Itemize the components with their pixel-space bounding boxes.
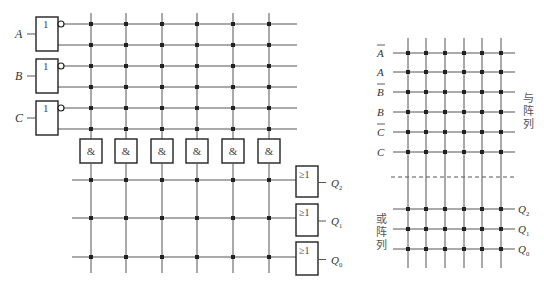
junction-dot: [267, 127, 271, 131]
junction-dot: [462, 70, 466, 74]
junction-dot: [406, 51, 410, 55]
junction-dot: [499, 110, 503, 114]
junction-dot: [462, 150, 466, 154]
output-label-Q0: Q0: [331, 254, 343, 268]
and-array-label-char: 与: [523, 92, 534, 105]
junction-dot: [443, 207, 447, 211]
and-gate-label: &: [158, 145, 167, 157]
junction-dot: [443, 70, 447, 74]
junction-dot: [406, 130, 410, 134]
junction-dot: [443, 110, 447, 114]
output-subscript: 2: [339, 184, 342, 191]
junction-dot: [267, 106, 271, 110]
junction-dot: [462, 90, 466, 94]
and-gate-label: &: [122, 145, 131, 157]
row-label-A: A: [376, 66, 384, 78]
row-label-not-B: B: [377, 86, 384, 98]
junction-dot: [231, 255, 235, 259]
junction-dot: [231, 216, 235, 220]
junction-dot: [443, 130, 447, 134]
junction-dot: [89, 178, 93, 182]
output-label-Q2: Q2: [331, 177, 342, 191]
junction-dot: [124, 178, 128, 182]
input-label-B: B: [15, 69, 23, 83]
junction-dot: [160, 85, 164, 89]
output-letter: Q: [331, 254, 339, 266]
and-gate-label: &: [193, 145, 202, 157]
junction-dot: [406, 90, 410, 94]
or-array-label-char: 列: [376, 238, 387, 252]
junction-dot: [424, 90, 428, 94]
junction-dot: [406, 247, 410, 251]
or-array-label-char: 阵: [376, 225, 387, 239]
or-gate-label: ≥1: [299, 207, 310, 218]
junction-dot: [443, 90, 447, 94]
row-label-not-A: A: [376, 47, 384, 59]
junction-dot: [424, 51, 428, 55]
junction-dot: [499, 90, 503, 94]
or-gate-label: ≥1: [299, 169, 310, 180]
buffer-gate-label: 1: [43, 102, 49, 114]
junction-dot: [499, 130, 503, 134]
junction-dot: [424, 227, 428, 231]
junction-dot: [424, 130, 428, 134]
junction-dot: [160, 64, 164, 68]
junction-dot: [424, 247, 428, 251]
junction-dot: [160, 22, 164, 26]
junction-dot: [480, 90, 484, 94]
input-label-C: C: [15, 111, 24, 125]
junction-dot: [89, 106, 93, 110]
and-array-label-char: 阵: [523, 104, 534, 118]
inverter-bubble: [58, 63, 64, 69]
junction-dot: [499, 247, 503, 251]
pla-diagram: 1A1B1C&&&&&&≥1Q2≥1Q1≥1Q0AABBCC与阵列Q2Q1Q0或…: [0, 0, 544, 288]
junction-dot: [443, 247, 447, 251]
junction-dot: [231, 22, 235, 26]
junction-dot: [499, 51, 503, 55]
buffer-gate-label: 1: [43, 18, 49, 30]
or-array-label-char: 或: [376, 213, 387, 226]
junction-dot: [499, 227, 503, 231]
junction-dot: [231, 106, 235, 110]
output-letter: Q: [331, 177, 339, 189]
junction-dot: [124, 106, 128, 110]
output-subscript: 0: [526, 250, 530, 257]
output-subscript: 1: [526, 230, 529, 237]
junction-dot: [480, 130, 484, 134]
junction-dot: [160, 106, 164, 110]
inverter-bubble: [58, 105, 64, 111]
junction-dot: [499, 150, 503, 154]
junction-dot: [231, 43, 235, 47]
junction-dot: [160, 43, 164, 47]
junction-dot: [195, 216, 199, 220]
junction-dot: [443, 51, 447, 55]
junction-dot: [89, 43, 93, 47]
junction-dot: [124, 127, 128, 131]
junction-dot: [124, 22, 128, 26]
junction-dot: [267, 85, 271, 89]
junction-dot: [160, 127, 164, 131]
output-subscript: 2: [526, 210, 529, 217]
and-gate-label: &: [229, 145, 238, 157]
junction-dot: [480, 207, 484, 211]
junction-dot: [231, 178, 235, 182]
junction-dot: [267, 43, 271, 47]
junction-dot: [89, 64, 93, 68]
junction-dot: [462, 110, 466, 114]
junction-dot: [89, 255, 93, 259]
junction-dot: [443, 150, 447, 154]
junction-dot: [267, 178, 271, 182]
output-subscript: 0: [339, 261, 343, 268]
junction-dot: [480, 51, 484, 55]
junction-dot: [443, 227, 447, 231]
junction-dot: [462, 130, 466, 134]
junction-dot: [124, 43, 128, 47]
junction-dot: [424, 150, 428, 154]
row-label-B: B: [377, 106, 384, 118]
junction-dot: [89, 22, 93, 26]
junction-dot: [231, 85, 235, 89]
junction-dot: [195, 85, 199, 89]
junction-dot: [267, 64, 271, 68]
output-letter: Q: [518, 223, 526, 235]
junction-dot: [124, 216, 128, 220]
